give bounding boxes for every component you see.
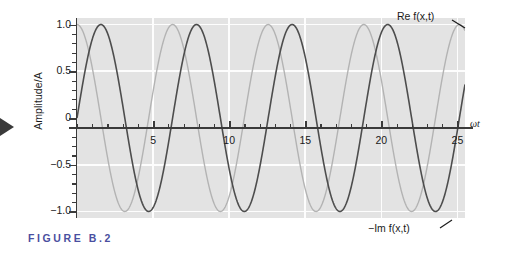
x-minor-tick <box>260 124 261 129</box>
x-minor-tick <box>199 124 200 129</box>
x-tick-label: 25 <box>442 134 472 146</box>
x-minor-tick <box>244 124 245 129</box>
x-minor-tick <box>412 124 413 129</box>
x-minor-tick <box>107 124 108 129</box>
x-axis-title: ωt <box>470 118 480 129</box>
x-major-tick <box>229 121 231 129</box>
y-tick-label: 1.0 <box>31 18 71 30</box>
x-minor-tick <box>275 124 276 129</box>
y-major-tick <box>69 165 77 167</box>
x-minor-tick <box>168 124 169 129</box>
x-tick-label: 5 <box>138 134 168 146</box>
x-major-tick <box>381 121 383 129</box>
plot-area <box>77 18 465 218</box>
figure-b2: Amplitude/A 1.0 0.5 0 −0.5 −1.0 51015202… <box>0 0 506 253</box>
series-label-im-text: −Im f(x,t) <box>368 222 410 234</box>
y-tick-label: −1.0 <box>31 204 71 216</box>
x-tick-label: 20 <box>366 134 396 146</box>
y-tick-label: −0.5 <box>31 158 71 170</box>
waveform-curves <box>77 18 465 218</box>
y-major-tick <box>69 118 77 120</box>
x-minor-tick <box>138 124 139 129</box>
x-minor-tick <box>92 124 93 129</box>
x-minor-tick <box>77 124 78 129</box>
x-minor-tick <box>336 124 337 129</box>
x-minor-tick <box>184 124 185 129</box>
y-tick-label-group: 1.0 0.5 0 −0.5 −1.0 <box>27 0 71 253</box>
x-minor-tick <box>214 124 215 129</box>
x-minor-tick <box>442 124 443 129</box>
figure-caption: FIGURE B.2 <box>28 232 113 244</box>
x-major-tick <box>457 121 459 129</box>
curve-re <box>77 25 465 212</box>
y-major-tick <box>69 25 77 27</box>
x-minor-tick <box>351 124 352 129</box>
curve-im <box>77 25 465 212</box>
x-minor-tick <box>290 124 291 129</box>
x-major-tick <box>153 121 155 129</box>
y-major-tick <box>69 211 77 213</box>
x-minor-tick <box>366 124 367 129</box>
x-major-tick <box>305 121 307 129</box>
series-label-re-text: Re f(x,t) <box>397 10 434 22</box>
left-pointer-arrow-icon <box>0 118 14 136</box>
y-tick-label: 0 <box>31 111 71 123</box>
series-label-im: −Im f(x,t) <box>368 222 410 234</box>
y-major-tick <box>69 71 77 73</box>
x-tick-label: 15 <box>290 134 320 146</box>
series-label-re: Re f(x,t) <box>397 10 434 22</box>
x-minor-tick <box>427 124 428 129</box>
x-minor-tick <box>397 124 398 129</box>
x-tick-label: 10 <box>214 134 244 146</box>
y-tick-label: 0.5 <box>31 64 71 76</box>
x-minor-tick <box>123 124 124 129</box>
x-minor-tick <box>320 124 321 129</box>
